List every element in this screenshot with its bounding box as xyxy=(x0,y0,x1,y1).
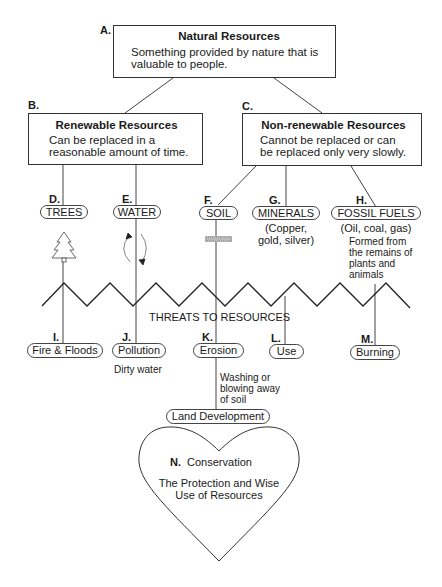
threats-label: THREATS TO RESOURCES xyxy=(149,311,290,323)
label-m: M. xyxy=(361,333,373,345)
connector-a-b xyxy=(125,78,173,113)
connector-a-c xyxy=(274,78,322,113)
water-pill: WATER xyxy=(113,205,161,219)
nonrenewable-resources-desc-1: Cannot be replaced or can xyxy=(260,134,417,146)
natural-resources-desc-1: Something provided by nature that is xyxy=(131,46,327,58)
conservation-heading: N. Conservation xyxy=(170,456,270,468)
erosion-note-1: Washing or xyxy=(220,372,280,383)
fossil-fuels-detail-1: Formed from xyxy=(349,236,412,247)
natural-resources-box: Natural Resources Something provided by … xyxy=(113,25,336,78)
use-pill: Use xyxy=(269,344,304,359)
minerals-pill: MINERALS xyxy=(252,206,320,220)
soil-texture-icon xyxy=(205,236,232,242)
label-l: L. xyxy=(271,332,281,344)
erosion-note-3: of soil xyxy=(220,394,280,405)
conservation-desc-2: Use of Resources xyxy=(149,489,289,501)
label-d: D. xyxy=(49,193,60,205)
fossil-fuels-detail-4: animals xyxy=(349,269,412,280)
label-b: B. xyxy=(28,99,39,111)
fossil-fuels-detail-3: plants and xyxy=(349,258,412,269)
label-h: H. xyxy=(356,194,367,206)
renewable-resources-desc-2: reasonable amount of time. xyxy=(49,146,196,158)
renewable-resources-desc-1: Can be replaced in a xyxy=(49,134,196,146)
conservation-desc-1: The Protection and Wise xyxy=(149,477,289,489)
threats-zigzag xyxy=(42,283,410,308)
erosion-note-2: blowing away xyxy=(220,383,280,394)
conservation-desc: The Protection and Wise Use of Resources xyxy=(149,477,289,501)
nonrenewable-resources-title: Non-renewable Resources xyxy=(260,119,417,131)
natural-resources-desc-2: valuable to people. xyxy=(131,58,327,70)
label-f: F. xyxy=(204,194,213,206)
erosion-note: Washing or blowing away of soil xyxy=(220,372,280,405)
minerals-examples-2: gold, silver) xyxy=(250,234,322,246)
natural-resources-title: Natural Resources xyxy=(131,30,327,42)
fossil-fuels-pill: FOSSIL FUELS xyxy=(331,206,421,220)
label-i: I. xyxy=(53,331,59,343)
label-g: G. xyxy=(269,194,281,206)
erosion-pill: Erosion xyxy=(193,343,244,358)
fossil-fuels-detail: Formed from the remains of plants and an… xyxy=(349,236,412,280)
pollution-note: Dirty water xyxy=(114,364,162,375)
pollution-pill: Pollution xyxy=(112,343,166,358)
water-cycle-icon xyxy=(124,233,147,265)
label-n: N. xyxy=(170,456,181,468)
fire-floods-pill: Fire & Floods xyxy=(27,343,103,358)
label-k: K. xyxy=(202,331,213,343)
fossil-fuels-examples: (Oil, coal, gas) xyxy=(333,222,419,234)
nonrenewable-resources-box: Non-renewable Resources Cannot be replac… xyxy=(242,113,422,166)
renewable-resources-title: Renewable Resources xyxy=(49,119,196,131)
nonrenewable-resources-desc-2: be replaced only very slowly. xyxy=(260,146,417,158)
burning-pill: Burning xyxy=(350,345,400,360)
soil-pill: SOIL xyxy=(199,206,238,220)
minerals-examples: (Copper, gold, silver) xyxy=(250,222,322,246)
fossil-fuels-detail-2: the remains of xyxy=(349,247,412,258)
label-c: C. xyxy=(242,100,253,112)
label-j: J. xyxy=(122,331,131,343)
conservation-title: Conservation xyxy=(187,456,252,468)
label-a: A. xyxy=(100,24,111,36)
minerals-examples-1: (Copper, xyxy=(250,222,322,234)
connector-c-f xyxy=(218,165,257,205)
renewable-resources-box: Renewable Resources Can be replaced in a… xyxy=(28,113,203,165)
tree-icon xyxy=(52,232,76,262)
label-e: E. xyxy=(122,193,132,205)
land-development-pill: Land Development xyxy=(166,409,270,424)
trees-pill: TREES xyxy=(40,205,88,219)
